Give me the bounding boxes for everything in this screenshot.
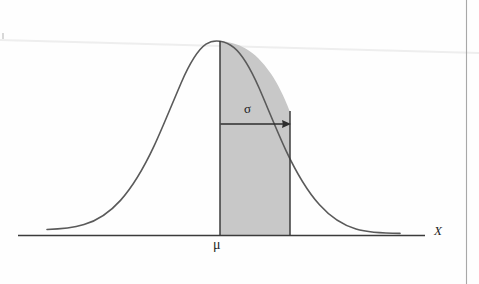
shaded-one-sigma-area — [220, 41, 290, 235]
bell-curve-diagram — [0, 0, 479, 284]
figure-canvas: μ σ X — [0, 0, 479, 284]
x-axis-label: X — [434, 224, 442, 237]
mean-label: μ — [213, 238, 221, 252]
sigma-label: σ — [244, 102, 251, 115]
scan-artifact-speck — [2, 33, 4, 39]
